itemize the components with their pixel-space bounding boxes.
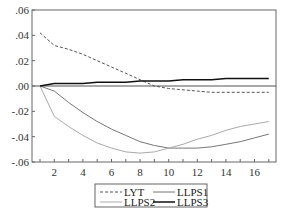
y-tick-label: .02 bbox=[15, 55, 29, 67]
y-tick-label: -.06 bbox=[12, 156, 30, 168]
y-axis: .06.04.02.00-.02-.04-.06 bbox=[12, 4, 35, 168]
x-tick-label: 12 bbox=[192, 166, 203, 178]
x-tick-label: 16 bbox=[249, 166, 261, 178]
legend-label-llps2: LLPS2 bbox=[124, 196, 155, 208]
series-line-llps3 bbox=[40, 78, 269, 86]
x-tick-label: 8 bbox=[137, 166, 143, 178]
y-tick-label: .06 bbox=[15, 4, 29, 16]
line-chart: .06.04.02.00-.02-.04-.06 246810121416 LY… bbox=[0, 0, 284, 220]
legend: LYT LLPS1 LLPS2 LLPS3 bbox=[95, 184, 209, 208]
series-layer bbox=[40, 33, 269, 153]
legend-label-llps3: LLPS3 bbox=[177, 196, 209, 208]
series-line-llps1 bbox=[40, 86, 269, 148]
x-tick-label: 6 bbox=[109, 166, 115, 178]
x-tick-label: 10 bbox=[163, 166, 175, 178]
y-tick-label: -.04 bbox=[12, 131, 30, 143]
y-tick-label: .04 bbox=[15, 29, 29, 41]
y-tick-label: .00 bbox=[15, 80, 29, 92]
x-tick-label: 14 bbox=[220, 166, 232, 178]
x-tick-label: 2 bbox=[52, 166, 58, 178]
x-tick-label: 4 bbox=[80, 166, 86, 178]
y-tick-label: -.02 bbox=[12, 105, 29, 117]
